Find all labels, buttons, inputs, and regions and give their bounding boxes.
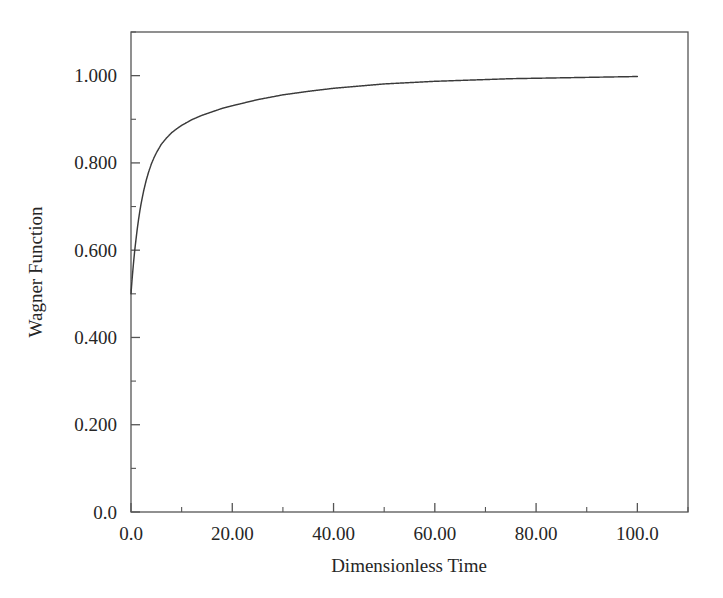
y-tick-label: 0.200: [74, 414, 117, 435]
chart-canvas: 0.00.2000.4000.6000.8001.000 0.020.0040.…: [0, 0, 723, 598]
x-tick-label: 40.00: [312, 523, 355, 544]
wagner-function-curve: [131, 77, 637, 294]
y-tick-label: 1.000: [74, 65, 117, 86]
x-axis-title: Dimensionless Time: [331, 555, 487, 576]
x-tick-label: 0.0: [119, 523, 143, 544]
y-axis-tick-labels: 0.00.2000.4000.6000.8001.000: [74, 65, 117, 522]
x-axis-tick-labels: 0.020.0040.0060.0080.00100.0: [119, 523, 659, 544]
y-tick-label: 0.600: [74, 240, 117, 261]
y-tick-label: 0.400: [74, 327, 117, 348]
y-axis-title: Wagner Function: [25, 206, 46, 337]
x-tick-label: 60.00: [413, 523, 456, 544]
plot-frame: [131, 32, 688, 512]
x-tick-label: 80.00: [515, 523, 558, 544]
y-tick-label: 0.0: [93, 502, 117, 523]
y-tick-label: 0.800: [74, 152, 117, 173]
x-tick-label: 20.00: [211, 523, 254, 544]
x-axis-ticks: [131, 503, 688, 512]
wagner-function-chart: 0.00.2000.4000.6000.8001.000 0.020.0040.…: [0, 0, 723, 598]
x-tick-label: 100.0: [616, 523, 659, 544]
